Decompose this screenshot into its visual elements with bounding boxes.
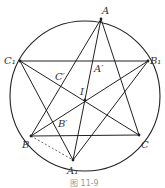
segments [20, 19, 148, 160]
point-A1 [72, 159, 75, 162]
label-C: C [141, 139, 149, 150]
label-C1: C₁ [4, 55, 16, 66]
label-Cp: C′ [55, 71, 66, 82]
point-C1 [19, 60, 22, 63]
label-Bp: B′ [57, 118, 68, 129]
segment-B1-A1 [73, 61, 148, 160]
label-B1: B₁ [149, 55, 161, 66]
point-A [100, 18, 103, 21]
point-labels: AB₁C₁BCA₁IA′C′B′ [4, 5, 161, 176]
point-B1 [147, 60, 150, 63]
point-I [84, 99, 87, 102]
geometry-figure: AB₁C₁BCA₁IA′C′B′ 图 11-9 [0, 0, 165, 188]
label-A: A [101, 5, 109, 16]
segment-B-C [31, 135, 139, 136]
label-A1: A₁ [66, 165, 78, 176]
label-I: I [79, 86, 85, 97]
label-Ap: A′ [93, 63, 104, 74]
segment-A-C [101, 19, 139, 135]
segment-B1-B [31, 61, 148, 136]
segment-A-A1 [73, 19, 101, 160]
label-B: B [21, 139, 29, 150]
point-C [138, 134, 141, 137]
circumcircle [10, 21, 160, 171]
point-B [30, 135, 33, 138]
figure-caption: 图 11-9 [70, 179, 99, 188]
